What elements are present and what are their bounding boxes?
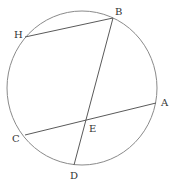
circle	[7, 11, 157, 165]
chord-hb	[25, 18, 113, 37]
label-c: C	[12, 133, 20, 144]
circle-diagram: H B A C E D	[0, 0, 175, 185]
label-b: B	[115, 6, 122, 17]
label-d: D	[70, 170, 78, 181]
label-e: E	[89, 123, 96, 134]
label-h: H	[14, 29, 23, 40]
label-a: A	[160, 97, 169, 108]
geometry-figure: H B A C E D	[0, 0, 175, 185]
chord-bd	[74, 18, 113, 165]
